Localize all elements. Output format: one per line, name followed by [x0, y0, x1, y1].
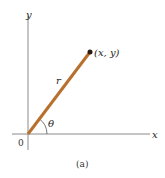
radius-label: r [56, 75, 62, 86]
figure-caption: (a) [76, 159, 88, 169]
y-axis-label: y [25, 9, 32, 20]
point-label: (x, y) [94, 47, 120, 58]
origin-label: 0 [18, 138, 24, 148]
angle-label: θ [48, 118, 54, 129]
point-marker [88, 50, 93, 55]
radius-line [28, 52, 90, 134]
x-axis-label: x [152, 129, 158, 140]
angle-arc [40, 119, 48, 134]
polar-coordinates-diagram: y x 0 (x, y) r θ (a) [0, 0, 165, 178]
